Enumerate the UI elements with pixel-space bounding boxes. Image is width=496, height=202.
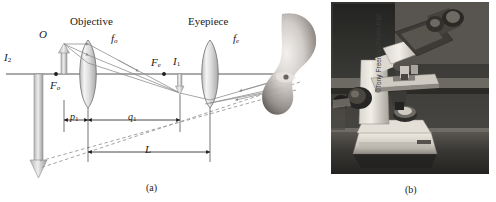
label-focal-length-eyepiece: fe <box>233 33 239 45</box>
label-tube-length-L: L <box>145 144 151 155</box>
label-distance-q1: q1 <box>128 112 137 123</box>
object-arrow <box>59 43 70 74</box>
label-object-O: O <box>39 29 47 40</box>
eyepiece-lens <box>202 40 219 108</box>
label-image-one: I1 <box>173 56 180 68</box>
label-eyepiece: Eyepiece <box>188 16 228 27</box>
label-focal-point-eyepiece: Fe <box>151 57 161 69</box>
microscope-figure: Objective Eyepiece fo fe O I2 Fo Fe I1 p… <box>0 0 496 202</box>
label-distance-p1: p1 <box>70 112 79 123</box>
panel-a-ray-diagram: Objective Eyepiece fo fe O I2 Fo Fe I1 p… <box>0 0 320 202</box>
label-focal-point-objective: Fo <box>50 80 60 92</box>
label-image-two: I2 <box>4 52 11 64</box>
focal-point-objective-dot <box>54 72 58 76</box>
caption-b: (b) <box>405 184 417 195</box>
microscope-photo <box>331 2 489 174</box>
caption-a: (a) <box>146 182 157 193</box>
label-focal-length-objective: fo <box>111 33 118 45</box>
photo-credit: ©Tony Freeman/Photo Edit <box>375 0 382 113</box>
label-objective: Objective <box>70 16 113 27</box>
objective-lens <box>80 40 97 108</box>
ray-diagram-svg <box>0 0 320 202</box>
image-two-arrow <box>30 74 47 178</box>
focal-point-eyepiece-dot <box>162 72 166 76</box>
ray-bundle-intermediate <box>88 44 180 93</box>
observer-eye-illustration <box>262 13 316 114</box>
panel-b-photograph: ©Tony Freeman/Photo Edit (b) <box>331 2 489 174</box>
virtual-ray-extensions <box>40 82 300 168</box>
dimension-p1-q1 <box>64 95 180 132</box>
